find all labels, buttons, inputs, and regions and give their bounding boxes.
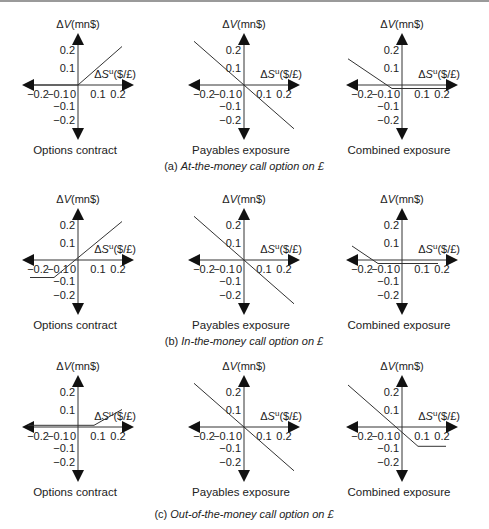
x-tick-label: 0.2 [434,88,449,100]
y-tick-label: −0.1 [377,275,399,287]
x-tick-label: −0.1 [47,88,69,100]
x-tick-label: 0 [236,88,242,100]
x-tick-label: 0.1 [414,263,429,275]
x-tick-label: 0 [394,430,400,442]
arrow-down-icon [238,128,250,140]
panel-title: Combined exposure [348,144,451,156]
y-tick-label: −0.1 [53,100,75,112]
y-tick-label: 0.2 [60,219,75,231]
y-tick-label: −0.2 [53,289,75,301]
x-tick-label: 0 [236,430,242,442]
panel-payables-exposure: ΔV(mn$)ΔSu($/£)−0.2−0.100.10.20.20.1−0.1… [188,193,302,331]
x-tick-label: −0.2 [27,88,49,100]
y-tick-label: 0.2 [226,386,241,398]
panel-combined-exposure: ΔV(mn$)ΔSu($/£)−0.2−0.100.10.20.20.1−0.1… [346,18,460,156]
panel-title: Payables exposure [192,486,290,498]
panel-title: Options contract [33,144,118,156]
x-axis-label: ΔSu($/£) [94,242,136,255]
x-tick-label: −0.1 [371,263,393,275]
x-tick-label: −0.2 [27,263,49,275]
y-tick-label: 0.1 [60,404,75,416]
y-tick-label: −0.2 [219,114,241,126]
y-tick-label: −0.1 [219,100,241,112]
x-axis-label: ΔSu($/£) [260,409,302,422]
y-tick-label: −0.1 [53,275,75,287]
arrow-down-icon [396,303,408,315]
figure-row-b: ΔV(mn$)ΔSu($/£)−0.2−0.100.10.20.20.1−0.1… [22,193,460,347]
panel-options-contract: ΔV(mn$)ΔSu($/£)−0.2−0.100.10.20.20.1−0.1… [22,193,136,331]
y-axis-label: ΔV(mn$) [380,18,423,30]
arrow-down-icon [238,303,250,315]
y-tick-label: 0.2 [384,386,399,398]
y-tick-label: 0.1 [60,237,75,249]
figure-row-c: ΔV(mn$)ΔSu($/£)−0.2−0.100.10.20.20.1−0.1… [22,360,460,520]
x-tick-label: −0.2 [193,88,215,100]
x-tick-label: −0.1 [213,430,235,442]
arrow-down-icon [238,470,250,482]
x-tick-label: 0.2 [434,263,449,275]
x-axis-label: ΔSu($/£) [418,67,460,80]
x-tick-label: −0.2 [193,263,215,275]
panel-options-contract: ΔV(mn$)ΔSu($/£)−0.2−0.100.10.20.20.1−0.1… [22,18,136,156]
x-tick-label: 0.1 [414,430,429,442]
arrow-down-icon [72,303,84,315]
y-tick-label: −0.1 [219,442,241,454]
y-axis-label: ΔV(mn$) [56,193,99,205]
arrow-down-icon [72,470,84,482]
x-tick-label: −0.1 [47,430,69,442]
row-caption: (b) In-the-money call option on £ [165,335,324,347]
x-tick-label: 0.2 [276,88,291,100]
y-tick-label: −0.2 [377,456,399,468]
x-axis-label: ΔSu($/£) [94,409,136,422]
x-tick-label: 0.1 [90,430,105,442]
panel-title: Payables exposure [192,319,290,331]
x-axis-label: ΔSu($/£) [260,242,302,255]
x-tick-label: −0.2 [193,430,215,442]
y-axis-label: ΔV(mn$) [56,18,99,30]
x-tick-label: −0.1 [371,88,393,100]
panel-combined-exposure: ΔV(mn$)ΔSu($/£)−0.2−0.100.10.20.20.1−0.1… [346,360,460,498]
arrow-down-icon [396,128,408,140]
x-tick-label: 0.2 [110,430,125,442]
y-axis-label: ΔV(mn$) [222,360,265,372]
y-axis-label: ΔV(mn$) [222,193,265,205]
figure-row-a: ΔV(mn$)ΔSu($/£)−0.2−0.100.10.20.20.1−0.1… [22,18,460,172]
x-tick-label: 0.2 [276,430,291,442]
y-tick-label: 0.1 [384,404,399,416]
x-tick-label: 0.2 [276,263,291,275]
exposure-diagram-figure: ΔV(mn$)ΔSu($/£)−0.2−0.100.10.20.20.1−0.1… [0,0,489,529]
row-caption: (a) At-the-money call option on £ [164,160,324,172]
x-tick-label: 0 [394,88,400,100]
x-tick-label: −0.2 [351,263,373,275]
panel-payables-exposure: ΔV(mn$)ΔSu($/£)−0.2−0.100.10.20.20.1−0.1… [188,18,302,156]
x-tick-label: −0.1 [371,430,393,442]
y-tick-label: −0.2 [377,114,399,126]
y-tick-label: −0.2 [219,456,241,468]
x-tick-label: 0.1 [90,88,105,100]
y-tick-label: −0.2 [53,456,75,468]
y-tick-label: −0.2 [53,114,75,126]
row-caption: (c) Out-of-the-money call option on £ [154,508,334,520]
y-tick-label: 0.2 [384,219,399,231]
panel-payables-exposure: ΔV(mn$)ΔSu($/£)−0.2−0.100.10.20.20.1−0.1… [188,360,302,498]
y-axis-label: ΔV(mn$) [222,18,265,30]
panel-title: Payables exposure [192,144,290,156]
x-tick-label: 0 [70,88,76,100]
arrow-down-icon [72,128,84,140]
x-tick-label: −0.2 [351,88,373,100]
x-tick-label: −0.1 [213,263,235,275]
y-tick-label: 0.2 [384,44,399,56]
x-tick-label: 0.2 [110,263,125,275]
y-tick-label: 0.2 [60,44,75,56]
x-tick-label: 0.2 [434,430,449,442]
y-tick-label: 0.1 [384,237,399,249]
x-axis-label: ΔSu($/£) [260,67,302,80]
y-tick-label: −0.1 [377,442,399,454]
panel-options-contract: ΔV(mn$)ΔSu($/£)−0.2−0.100.10.20.20.1−0.1… [22,360,136,498]
x-tick-label: −0.1 [47,263,69,275]
x-axis-label: ΔSu($/£) [418,242,460,255]
y-axis-label: ΔV(mn$) [380,193,423,205]
x-tick-label: 0 [70,263,76,275]
y-tick-label: −0.1 [219,275,241,287]
y-tick-label: 0.2 [60,386,75,398]
